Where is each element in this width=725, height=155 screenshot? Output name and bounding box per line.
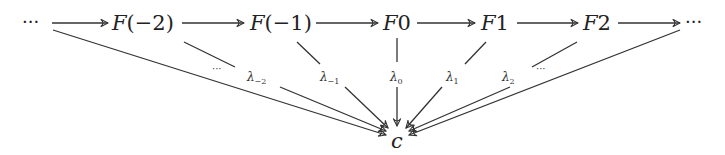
- cocone-legs: [53, 30, 680, 135]
- node-f-m2: F(−2): [111, 11, 174, 35]
- label-right-dots: ···: [536, 63, 546, 74]
- label-left-dots: ···: [212, 63, 222, 74]
- left-dots: ···: [22, 11, 39, 32]
- label-lambda-m1: λ−1: [319, 70, 339, 86]
- colimit-diagram: ··· F(−2) F(−1) F0 F1 F2 ··· ··· λ−2 λ−1…: [0, 0, 725, 155]
- leg-f1-lower: [406, 87, 442, 128]
- apex-c: c: [391, 129, 403, 153]
- leg-f-m2-lower: [280, 87, 386, 131]
- node-f-m1: F(−1): [249, 11, 312, 35]
- leg-f-m2-upper: [184, 42, 235, 67]
- label-lambda-1: λ1: [445, 70, 459, 86]
- leg-f-m1-upper: [297, 42, 320, 64]
- leg-f2-lower: [409, 87, 510, 131]
- node-f0: F0: [382, 11, 411, 35]
- label-lambda-2: λ2: [501, 70, 515, 86]
- label-lambda-0: λ0: [389, 70, 403, 86]
- node-f1: F1: [480, 11, 509, 35]
- leg-f-m1-lower: [345, 87, 388, 128]
- leg-labels: ··· λ−2 λ−1 λ0 λ1 λ2 ···: [212, 63, 546, 86]
- right-dots: ···: [685, 11, 702, 32]
- leg-f1-upper: [465, 42, 486, 64]
- node-f2: F2: [582, 11, 611, 35]
- label-lambda-m2: λ−2: [246, 70, 266, 86]
